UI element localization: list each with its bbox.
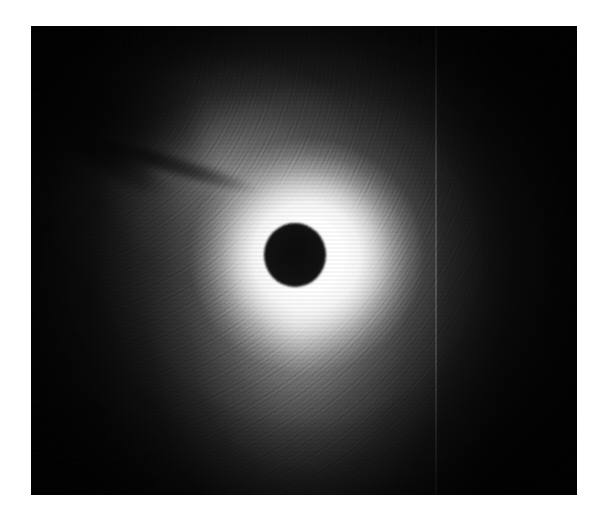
- right-dark-strip: [437, 26, 577, 495]
- coronagraph-image: [31, 26, 577, 495]
- occulting-disk: [264, 223, 326, 287]
- page-root: [0, 0, 601, 516]
- detector-seam-line: [435, 26, 437, 495]
